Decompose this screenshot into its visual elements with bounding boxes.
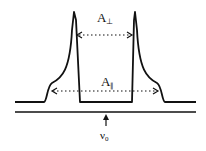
a-par-label: A∥ [101,74,114,90]
a-perp-label: A⊥ [97,10,113,26]
nu0-marker-arrow [103,114,109,126]
diagram-canvas: A⊥ A∥ ν0 [0,0,206,151]
a-perp-double-arrow [77,32,132,38]
nu0-label: ν0 [100,129,109,143]
